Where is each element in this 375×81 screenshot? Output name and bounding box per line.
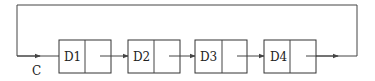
node-label: D1 — [64, 50, 81, 64]
node-label: D4 — [270, 50, 288, 64]
linked-list-diagram: C D1 D2 D3 D4 — [0, 0, 375, 81]
node-label: D2 — [133, 50, 150, 64]
node-label: D3 — [200, 50, 217, 64]
input-label-c: C — [32, 64, 41, 78]
